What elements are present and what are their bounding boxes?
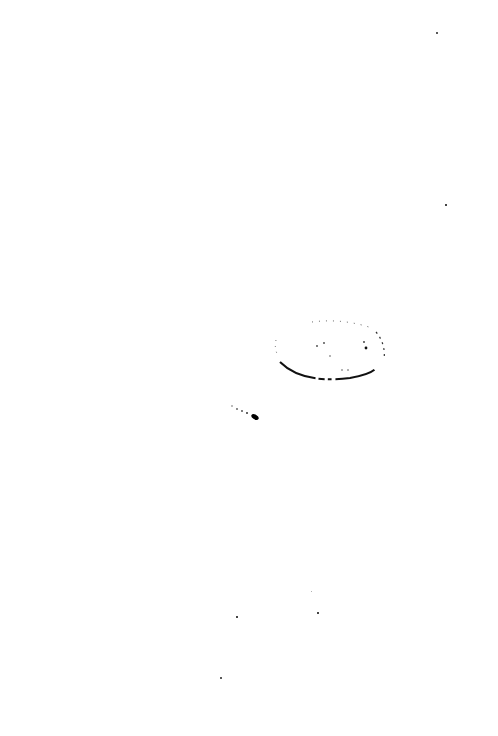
scan-speck <box>317 612 319 614</box>
scan-speck <box>311 591 312 592</box>
scan-speck <box>445 204 447 206</box>
blank-page <box>0 0 498 736</box>
scan-speck <box>236 616 238 618</box>
scan-speck <box>220 677 222 679</box>
scan-speck <box>436 32 438 34</box>
faded-oval-stamp <box>272 318 390 382</box>
ink-smudge <box>228 402 262 424</box>
